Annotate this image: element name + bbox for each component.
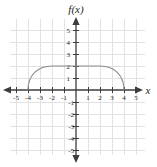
y-tick-label: -1: [68, 99, 74, 107]
y-tick-label: 4: [67, 39, 71, 47]
x-tick-label: -4: [25, 94, 31, 102]
x-tick-label: -1: [61, 94, 67, 102]
x-tick-label: 4: [122, 94, 126, 102]
function-label: f(x): [68, 3, 84, 16]
x-tick-label: 1: [86, 94, 90, 102]
grid-lines: [10, 19, 145, 155]
y-tick-label: 5: [67, 27, 71, 35]
y-tick-label: -4: [68, 135, 74, 143]
y-tick-label: 3: [67, 51, 71, 59]
y-tick-label: 1: [67, 75, 71, 83]
graph-figure: -5 -4 -3 -2 -1 1 2 3 4 5 5 4 3 2 1 -1 -2…: [0, 0, 157, 167]
y-tick-label: -5: [68, 147, 74, 155]
x-tick-label: 3: [110, 94, 114, 102]
y-axis-arrow-up: [72, 17, 79, 25]
y-tick-labels: 5 4 3 2 1 -1 -2 -3 -4 -5: [67, 27, 75, 155]
y-axis-arrow-down: [72, 155, 79, 163]
coordinate-plane-svg: -5 -4 -3 -2 -1 1 2 3 4 5 5 4 3 2 1 -1 -2…: [0, 0, 157, 167]
y-tick-label: 2: [67, 63, 71, 71]
x-axis-arrow-left: [3, 86, 11, 93]
x-tick-label: -2: [49, 94, 55, 102]
x-tick-label: -5: [13, 94, 19, 102]
x-axis-label: x: [145, 84, 151, 96]
y-tick-label: -2: [68, 111, 74, 119]
x-tick-label: 2: [98, 94, 102, 102]
x-tick-label: 5: [134, 94, 138, 102]
y-tick-label: -3: [68, 123, 74, 131]
x-axis: [3, 86, 143, 93]
x-tick-label: -3: [37, 94, 43, 102]
